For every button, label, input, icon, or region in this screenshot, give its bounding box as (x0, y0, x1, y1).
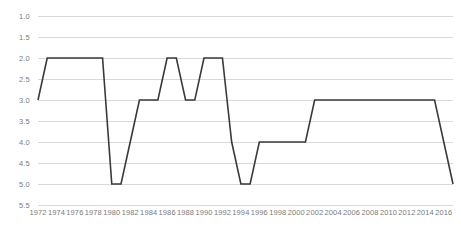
x-axis-tick-label: 1972 (29, 208, 46, 217)
y-axis-tick-label: 4.5 (19, 159, 30, 168)
x-axis-tick-label: 1990 (195, 208, 212, 217)
plot-area (38, 16, 453, 205)
y-axis-tick-label: 5.5 (19, 201, 30, 210)
x-axis-tick-label: 1998 (269, 208, 286, 217)
x-axis-tick-label: 1982 (122, 208, 139, 217)
y-axis-tick-label: 3.5 (19, 117, 30, 126)
x-axis-tick-label: 1988 (177, 208, 194, 217)
y-axis-tick-label: 4.0 (19, 138, 30, 147)
y-axis-tick-label: 1.0 (19, 12, 30, 21)
x-axis-tick-label: 1994 (232, 208, 249, 217)
x-axis-tick-label: 2004 (325, 208, 342, 217)
gridline (38, 205, 453, 206)
y-axis-tick-label: 3.0 (19, 96, 30, 105)
series-layer (38, 16, 453, 205)
x-axis-tick-label: 1996 (251, 208, 268, 217)
y-axis-tick-label: 2.5 (19, 75, 30, 84)
x-axis-tick-label: 1978 (85, 208, 102, 217)
y-axis-tick-label: 1.5 (19, 33, 30, 42)
x-axis-tick-label: 2006 (343, 208, 360, 217)
x-axis: 1972197419761978198019821984198619881990… (38, 208, 453, 224)
x-axis-tick-label: 2016 (435, 208, 452, 217)
y-axis-tick-label: 5.0 (19, 180, 30, 189)
x-axis-tick-label: 1974 (48, 208, 65, 217)
y-axis: 1.01.52.02.53.03.54.04.55.05.5 (0, 16, 34, 205)
x-axis-tick-label: 2014 (417, 208, 434, 217)
x-axis-tick-label: 1984 (140, 208, 157, 217)
x-axis-tick-label: 1986 (159, 208, 176, 217)
series-line-0 (38, 58, 453, 184)
x-axis-tick-label: 2002 (306, 208, 323, 217)
x-axis-tick-label: 2012 (398, 208, 415, 217)
x-axis-tick-label: 2000 (288, 208, 305, 217)
x-axis-tick-label: 1980 (103, 208, 120, 217)
x-axis-tick-label: 1992 (214, 208, 231, 217)
x-axis-tick-label: 2010 (380, 208, 397, 217)
x-axis-tick-label: 2008 (361, 208, 378, 217)
line-chart: 1.01.52.02.53.03.54.04.55.05.5 197219741… (0, 0, 461, 229)
x-axis-tick-label: 1976 (66, 208, 83, 217)
y-axis-tick-label: 2.0 (19, 54, 30, 63)
